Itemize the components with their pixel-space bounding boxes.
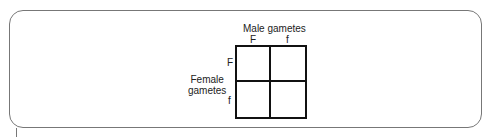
punnett-cell (271, 47, 305, 82)
male-gametes-label: Male gametes (243, 23, 306, 34)
row-header-f: f (228, 95, 231, 106)
punnett-cell (237, 82, 271, 117)
female-label-line2: gametes (188, 85, 226, 96)
row-header-F: F (227, 57, 233, 68)
punnett-grid (235, 45, 307, 119)
punnett-cell (271, 82, 305, 117)
punnett-cell (237, 47, 271, 82)
female-label-line1: Female (188, 74, 226, 85)
frame-tail-line (16, 128, 17, 137)
column-header-F: F (250, 34, 256, 45)
female-gametes-label: Female gametes (188, 74, 226, 96)
column-header-f: f (286, 34, 289, 45)
